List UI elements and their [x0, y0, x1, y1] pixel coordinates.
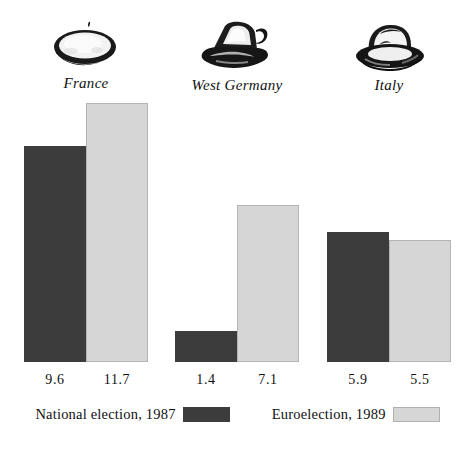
value-label-west-germany-national-election-1987: 1.4	[175, 372, 237, 388]
bar-france-euroelection-1989	[86, 103, 148, 362]
country-header-west-germany: West Germany	[167, 18, 307, 94]
bar-west-germany-euroelection-1989	[237, 205, 299, 362]
bar-france-national-election-1987	[24, 146, 86, 362]
fedora-hat-icon	[347, 18, 431, 74]
chart-legend: National election, 1987 Euroelection, 19…	[0, 406, 475, 423]
legend-label-national-election-1987: National election, 1987	[35, 406, 175, 423]
value-label-italy-euroelection-1989: 5.5	[389, 372, 451, 388]
legend-entry-national-election-1987: National election, 1987	[35, 406, 229, 423]
bar-west-germany-national-election-1987	[175, 331, 237, 362]
legend-label-euroelection-1989: Euroelection, 1989	[272, 406, 386, 423]
value-label-italy-national-election-1987: 5.9	[327, 372, 389, 388]
legend-swatch-national-election-1987	[183, 407, 230, 422]
bar-chart: France West Germany Italy	[0, 0, 475, 451]
value-label-west-germany-euroelection-1989: 7.1	[237, 372, 299, 388]
country-header-france: France	[16, 20, 156, 92]
bar-italy-national-election-1987	[327, 232, 389, 362]
country-label-italy: Italy	[319, 77, 459, 94]
value-label-france-national-election-1987: 9.6	[24, 372, 86, 388]
country-label-france: France	[16, 75, 156, 92]
country-label-west-germany: West Germany	[167, 77, 307, 94]
country-header-italy: Italy	[319, 18, 459, 94]
tyrolean-hat-icon	[194, 18, 280, 74]
value-label-france-euroelection-1989: 11.7	[86, 372, 148, 388]
bar-italy-euroelection-1989	[389, 240, 451, 362]
beret-hat-icon	[47, 20, 125, 72]
legend-entry-euroelection-1989: Euroelection, 1989	[272, 406, 440, 423]
legend-swatch-euroelection-1989	[393, 407, 440, 422]
